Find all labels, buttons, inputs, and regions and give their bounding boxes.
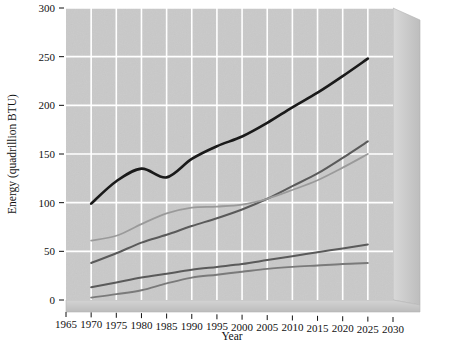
- x-tick-label: 1985: [156, 320, 179, 332]
- y-tick-label: 300: [39, 2, 56, 14]
- x-tick-label: 1970: [80, 318, 103, 330]
- x-tick-label: 2030: [382, 323, 405, 335]
- x-tick-label: 2025: [357, 323, 380, 335]
- floor-slab: [66, 300, 420, 312]
- x-tick-label: 1980: [130, 319, 153, 331]
- energy-line-chart: 050100150200250300 196519701975198019851…: [0, 0, 458, 345]
- y-tick-label: 250: [39, 51, 56, 63]
- x-tick-label: 1990: [181, 320, 204, 332]
- x-tick-label: 1965: [55, 318, 78, 330]
- y-axis-title: Energy (quadrillion BTU): [6, 94, 19, 214]
- chart-canvas: 050100150200250300 196519701975198019851…: [0, 0, 458, 345]
- right-wall-panel: [393, 8, 420, 305]
- x-tick-label: 2020: [332, 322, 355, 334]
- y-axis-ticks: 050100150200250300: [39, 2, 65, 306]
- x-tick-label: 1975: [105, 319, 128, 331]
- x-tick-label: 2005: [256, 321, 279, 333]
- x-axis-title: Year: [221, 330, 242, 342]
- y-tick-label: 150: [39, 148, 56, 160]
- y-tick-label: 200: [39, 99, 56, 111]
- y-tick-label: 0: [50, 294, 56, 306]
- y-tick-label: 100: [39, 197, 56, 209]
- x-tick-label: 2010: [281, 321, 304, 333]
- y-tick-label: 50: [44, 245, 56, 257]
- x-tick-label: 2015: [307, 322, 330, 334]
